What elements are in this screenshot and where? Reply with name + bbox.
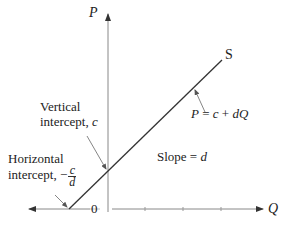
equation-plus: +	[219, 106, 233, 121]
supply-curve-label: S	[225, 48, 233, 62]
equation-label: P = c + dQ	[191, 107, 248, 121]
horizontal-intercept-leader-arrow	[55, 195, 67, 207]
horizontal-intercept-fraction: cd	[68, 165, 76, 188]
slope-label: Slope = d	[157, 150, 207, 164]
fraction-numerator: c	[68, 165, 76, 176]
horizontal-intercept-text: intercept, −	[8, 167, 67, 182]
equation-dq: dQ	[232, 106, 248, 121]
origin-label: 0	[91, 202, 98, 216]
equation-equals: =	[199, 106, 213, 121]
vertical-intercept-leader-arrow	[87, 136, 106, 169]
vertical-intercept-label-line1: Vertical	[40, 100, 80, 114]
y-axis-label: P	[89, 6, 98, 20]
horizontal-intercept-label-line2: intercept, −cd	[8, 162, 76, 188]
equation-lhs: P	[191, 106, 199, 121]
fraction-denominator: d	[68, 176, 76, 188]
vertical-intercept-text: intercept,	[40, 114, 92, 129]
x-axis-label: Q	[268, 202, 278, 216]
vertical-intercept-label-line2: intercept, c	[40, 115, 98, 129]
supply-line	[69, 60, 222, 209]
vertical-intercept-var: c	[92, 114, 98, 129]
slope-text: Slope =	[157, 149, 200, 164]
slope-var: d	[200, 149, 207, 164]
